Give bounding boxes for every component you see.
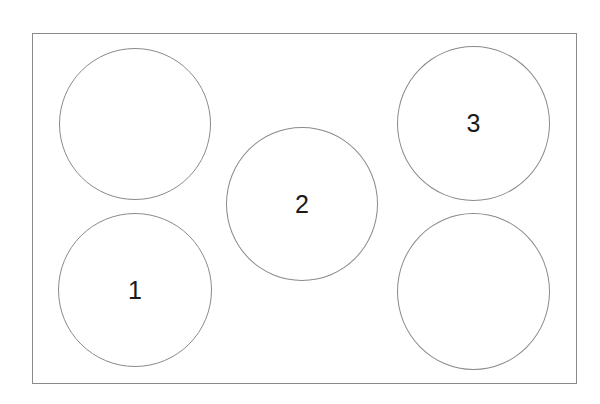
circle-3: 3 [397, 46, 550, 201]
circle-top-left [59, 48, 211, 200]
circle-label: 2 [295, 192, 309, 217]
circle-bottom-right [397, 213, 550, 370]
circle-1: 1 [58, 213, 212, 367]
circle-2: 2 [226, 127, 378, 281]
circle-label: 3 [467, 111, 481, 136]
circle-label: 1 [128, 278, 142, 303]
